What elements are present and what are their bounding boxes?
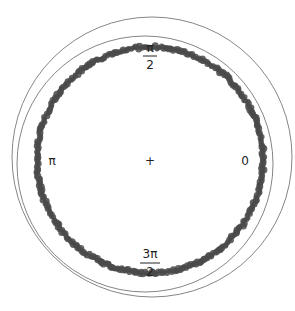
svg-text:2: 2 xyxy=(146,58,154,72)
svg-text:3π: 3π xyxy=(143,247,158,261)
svg-text:π: π xyxy=(146,41,153,55)
center-marker: + xyxy=(145,154,155,168)
label-pi: π xyxy=(48,154,55,168)
data-point xyxy=(260,158,267,165)
label-zero: 0 xyxy=(241,154,249,168)
circular-scatter-plot: 0 π π 2 3π 2 + xyxy=(0,0,295,311)
svg-text:2: 2 xyxy=(146,265,154,279)
